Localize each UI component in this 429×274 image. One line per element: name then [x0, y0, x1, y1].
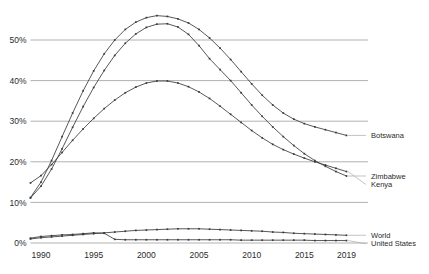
- data-point-marker: [293, 153, 295, 155]
- data-point-marker: [61, 152, 63, 154]
- series-label-botswana: Botswana: [371, 131, 405, 140]
- data-point-marker: [30, 197, 32, 199]
- data-point-marker: [124, 42, 126, 44]
- data-point-marker: [293, 232, 295, 234]
- data-point-marker: [167, 16, 169, 18]
- y-tick-label: 50%: [9, 35, 26, 45]
- x-tick-label: 1995: [84, 250, 103, 260]
- data-point-marker: [188, 239, 190, 241]
- data-point-marker: [124, 29, 126, 31]
- data-point-marker: [51, 235, 53, 237]
- data-point-marker: [346, 135, 348, 137]
- data-point-marker: [40, 181, 42, 183]
- data-point-marker: [135, 230, 137, 232]
- data-point-marker: [261, 137, 263, 139]
- data-point-marker: [167, 228, 169, 230]
- data-point-marker: [82, 128, 84, 130]
- data-point-marker: [40, 236, 42, 238]
- data-point-marker: [156, 239, 158, 241]
- data-point-marker: [314, 126, 316, 128]
- data-point-marker: [303, 239, 305, 241]
- data-point-marker: [230, 80, 232, 82]
- data-point-marker: [146, 239, 148, 241]
- x-tick-label: 1990: [32, 250, 51, 260]
- data-point-marker: [325, 164, 327, 166]
- data-point-marker: [261, 115, 263, 117]
- data-point-marker: [303, 157, 305, 159]
- data-point-marker: [188, 86, 190, 88]
- data-point-marker: [314, 240, 316, 242]
- series-markers: [30, 15, 348, 242]
- data-point-marker: [135, 33, 137, 35]
- data-point-marker: [103, 232, 105, 234]
- data-point-marker: [219, 229, 221, 231]
- data-point-marker: [282, 136, 284, 138]
- data-point-marker: [293, 145, 295, 147]
- data-point-marker: [82, 233, 84, 235]
- data-point-marker: [135, 86, 137, 88]
- data-point-marker: [146, 27, 148, 29]
- data-point-marker: [124, 239, 126, 241]
- series-label-kenya: Kenya: [371, 180, 393, 189]
- data-point-marker: [209, 58, 211, 60]
- y-axis-tick-labels: 0%10%20%30%40%50%: [9, 35, 26, 248]
- data-point-marker: [346, 175, 348, 177]
- x-tick-label: 2010: [242, 250, 261, 260]
- data-point-marker: [282, 239, 284, 241]
- data-point-marker: [198, 29, 200, 31]
- data-point-marker: [82, 106, 84, 108]
- data-point-marker: [72, 139, 74, 141]
- data-point-marker: [135, 239, 137, 241]
- data-point-marker: [188, 228, 190, 230]
- data-point-marker: [209, 37, 211, 39]
- data-point-marker: [314, 233, 316, 235]
- data-point-marker: [251, 130, 253, 132]
- data-point-marker: [240, 71, 242, 73]
- data-point-marker: [82, 90, 84, 92]
- data-point-marker: [114, 239, 116, 241]
- data-point-marker: [40, 185, 42, 187]
- data-point-marker: [219, 69, 221, 71]
- data-point-marker: [167, 80, 169, 82]
- data-point-marker: [209, 239, 211, 241]
- data-point-marker: [93, 232, 95, 234]
- y-tick-label: 20%: [9, 157, 26, 167]
- data-point-marker: [346, 240, 348, 242]
- data-point-marker: [272, 126, 274, 128]
- y-tick-label: 0%: [14, 238, 27, 248]
- data-point-marker: [325, 234, 327, 236]
- data-point-marker: [282, 232, 284, 234]
- data-point-marker: [188, 22, 190, 24]
- x-tick-label: 2000: [137, 250, 156, 260]
- x-tick-label: 2015: [295, 250, 314, 260]
- data-point-marker: [124, 230, 126, 232]
- data-point-marker: [272, 239, 274, 241]
- data-point-marker: [335, 167, 337, 169]
- data-point-marker: [198, 228, 200, 230]
- y-tick-label: 10%: [9, 198, 26, 208]
- data-point-marker: [72, 234, 74, 236]
- data-point-marker: [219, 239, 221, 241]
- y-tick-label: 40%: [9, 76, 26, 86]
- data-point-marker: [177, 82, 179, 84]
- x-axis-tick-labels: 1990199520002005201020152019: [32, 250, 357, 260]
- data-point-marker: [146, 82, 148, 84]
- series-label-united-states: United States: [371, 239, 416, 248]
- data-point-marker: [167, 239, 169, 241]
- gridlines: [31, 40, 369, 243]
- data-point-marker: [72, 126, 74, 128]
- data-point-marker: [251, 230, 253, 232]
- data-point-marker: [240, 239, 242, 241]
- data-point-marker: [103, 108, 105, 110]
- data-point-marker: [303, 233, 305, 235]
- data-point-marker: [30, 182, 32, 184]
- data-point-marker: [293, 118, 295, 120]
- data-point-marker: [325, 129, 327, 131]
- data-point-marker: [103, 53, 105, 55]
- data-point-marker: [251, 239, 253, 241]
- data-point-marker: [156, 80, 158, 82]
- data-point-marker: [219, 105, 221, 107]
- data-point-marker: [230, 113, 232, 115]
- data-point-marker: [272, 231, 274, 233]
- series-lines: [31, 16, 347, 241]
